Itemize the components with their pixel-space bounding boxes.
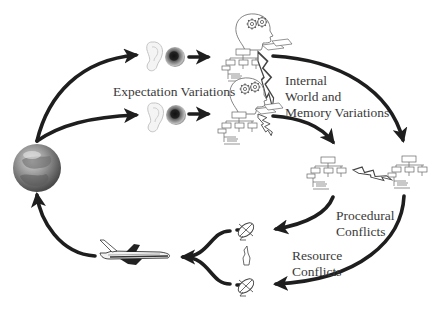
arrow-globe-to-ear-bottom: [37, 115, 136, 141]
label-procedural-conflicts: Conflicts: [336, 223, 386, 240]
arrow-dish-top-to-airplane: [183, 231, 230, 257]
globe-icon: [13, 144, 61, 192]
bolt-icon-bottom: [258, 114, 272, 136]
bolt-icon-dishes: [243, 246, 250, 265]
label-internal: Internal: [285, 72, 327, 89]
arrow-dish-bottom-to-airplane: [183, 257, 230, 284]
label-resource-conflicts: Conflicts: [292, 263, 342, 280]
org-chart-icon-top: [222, 49, 261, 81]
ear-icon-bottom: [148, 103, 164, 132]
arrow-airplane-to-globe: [37, 195, 95, 256]
airplane-icon: [100, 240, 170, 265]
label-world-and: World and: [285, 88, 341, 105]
satellite-dish-icon-bottom: [236, 276, 257, 296]
eye-icon-top: [165, 47, 185, 67]
org-chart-icon-left: [307, 157, 346, 189]
label-resource: Resource: [292, 247, 342, 264]
bolt-icon-conflict: [353, 160, 392, 189]
org-chart-icon-bottom: [218, 112, 257, 144]
org-chart-icon-right: [388, 156, 427, 188]
eye-icon-bottom: [166, 105, 186, 125]
satellite-dish-icon-top: [236, 220, 257, 240]
ear-icon-top: [147, 42, 163, 71]
label-memory-variations: Memory Variations: [285, 104, 389, 121]
label-procedural: Procedural: [336, 207, 394, 224]
label-expectation-variations: Expectation Variations: [113, 83, 235, 100]
arrow-procedural-conflicts: [276, 197, 333, 229]
diagram-canvas: [0, 0, 446, 311]
